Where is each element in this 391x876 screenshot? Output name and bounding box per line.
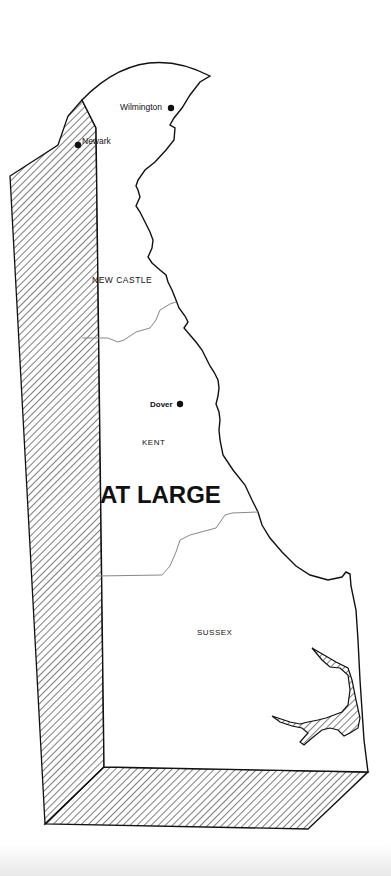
city-label-newark: Newark [82, 136, 112, 146]
wilmington-dot-icon [168, 105, 174, 111]
extrusion-bottom-side [45, 767, 368, 829]
delaware-map: Wilmington Newark Dover NEW CASTLE KENT … [0, 0, 391, 876]
county-label-kent: KENT [142, 438, 165, 447]
dover-dot-icon [177, 401, 183, 407]
extrusion-left-side [10, 100, 104, 824]
state-outline [82, 63, 368, 773]
district-label: AT LARGE [100, 481, 221, 508]
county-label-new-castle: NEW CASTLE [92, 275, 152, 285]
city-label-wilmington: Wilmington [120, 102, 162, 112]
county-label-sussex: SUSSEX [197, 628, 233, 637]
city-label-dover: Dover [150, 400, 173, 409]
newark-dot-icon [75, 142, 81, 148]
